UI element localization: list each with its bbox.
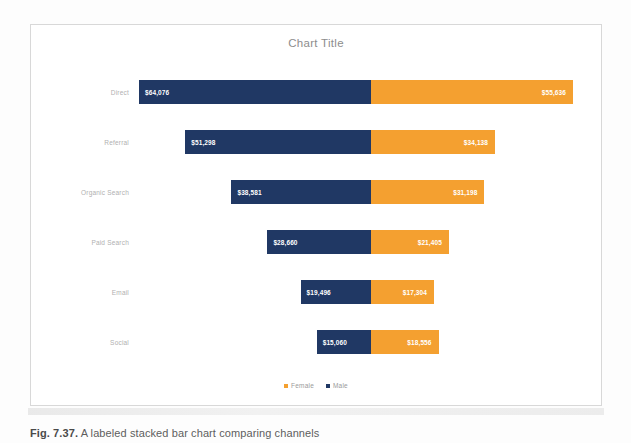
legend-label: Male <box>333 382 348 389</box>
stacked-bar[interactable]: $64,076$55,636 <box>139 80 573 104</box>
chart-row: Direct$64,076$55,636 <box>31 67 603 117</box>
bar-track: $19,496$17,304 <box>139 267 603 317</box>
stacked-bar[interactable]: $15,060$18,556 <box>317 330 439 354</box>
legend-item-male[interactable]: Male <box>326 382 348 389</box>
bar-segment-male[interactable]: $51,298 <box>185 130 371 154</box>
chart-legend[interactable]: FemaleMale <box>31 382 601 389</box>
bar-segment-male[interactable]: $28,660 <box>267 230 371 254</box>
bar-value-female: $31,198 <box>453 189 477 196</box>
legend-swatch-icon <box>326 384 330 388</box>
bar-value-female: $21,405 <box>418 239 442 246</box>
category-label: Email <box>31 289 139 296</box>
bar-value-male: $51,298 <box>191 139 215 146</box>
bar-segment-male[interactable]: $38,581 <box>231 180 371 204</box>
bar-segment-female[interactable]: $18,556 <box>371 330 438 354</box>
chart-row: Referral$51,298$34,138 <box>31 117 603 167</box>
bar-track: $38,581$31,198 <box>139 167 603 217</box>
bar-segment-male[interactable]: $19,496 <box>301 280 372 304</box>
bar-value-female: $34,138 <box>464 139 488 146</box>
chart-row: Email$19,496$17,304 <box>31 267 603 317</box>
bar-value-female: $55,636 <box>542 89 566 96</box>
category-label: Direct <box>31 89 139 96</box>
bar-segment-female[interactable]: $17,304 <box>371 280 434 304</box>
page-scan-strip <box>28 408 604 415</box>
bar-value-male: $64,076 <box>145 89 169 96</box>
bar-track: $28,660$21,405 <box>139 217 603 267</box>
bar-value-male: $19,496 <box>307 289 331 296</box>
chart-row: Paid Search$28,660$21,405 <box>31 217 603 267</box>
bar-segment-male[interactable]: $15,060 <box>317 330 372 354</box>
figure-caption: Fig. 7.37. A labeled stacked bar chart c… <box>30 424 590 443</box>
bar-track: $51,298$34,138 <box>139 117 603 167</box>
bar-segment-female[interactable]: $34,138 <box>371 130 495 154</box>
bar-value-male: $15,060 <box>323 339 347 346</box>
bar-value-male: $28,660 <box>273 239 297 246</box>
figure-caption-text: A labeled stacked bar chart comparing ch… <box>78 427 319 439</box>
page-background: Chart Title Direct$64,076$55,636Referral… <box>0 0 631 443</box>
bar-value-male: $38,581 <box>237 189 261 196</box>
chart-row: Social$15,060$18,556 <box>31 317 603 367</box>
stacked-bar[interactable]: $28,660$21,405 <box>267 230 448 254</box>
category-label: Social <box>31 339 139 346</box>
chart-card[interactable]: Chart Title Direct$64,076$55,636Referral… <box>30 24 602 406</box>
chart-row: Organic Search$38,581$31,198 <box>31 167 603 217</box>
bar-value-female: $18,556 <box>407 339 431 346</box>
bar-segment-female[interactable]: $31,198 <box>371 180 484 204</box>
legend-item-female[interactable]: Female <box>284 382 314 389</box>
chart-title[interactable]: Chart Title <box>31 37 601 49</box>
bar-track: $64,076$55,636 <box>139 67 603 117</box>
stacked-bar[interactable]: $51,298$34,138 <box>185 130 495 154</box>
bar-value-female: $17,304 <box>403 289 427 296</box>
category-label: Organic Search <box>31 189 139 196</box>
bar-segment-male[interactable]: $64,076 <box>139 80 371 104</box>
bar-track: $15,060$18,556 <box>139 317 603 367</box>
plot-area: Direct$64,076$55,636Referral$51,298$34,1… <box>31 67 603 367</box>
legend-label: Female <box>291 382 314 389</box>
legend-swatch-icon <box>284 384 288 388</box>
bar-segment-female[interactable]: $21,405 <box>371 230 449 254</box>
category-label: Paid Search <box>31 239 139 246</box>
stacked-bar[interactable]: $38,581$31,198 <box>231 180 484 204</box>
stacked-bar[interactable]: $19,496$17,304 <box>301 280 434 304</box>
category-label: Referral <box>31 139 139 146</box>
bar-segment-female[interactable]: $55,636 <box>371 80 573 104</box>
figure-caption-label: Fig. 7.37. <box>30 427 78 439</box>
